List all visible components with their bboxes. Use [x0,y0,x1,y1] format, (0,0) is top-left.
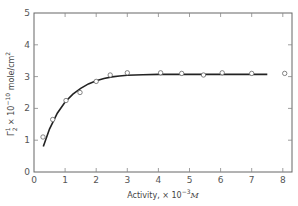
data-point [250,71,254,75]
data-point [108,73,112,77]
y-tick-label: 5 [24,8,30,18]
data-point [201,73,205,77]
y-tick-labels: 012345 [24,8,30,177]
x-tick-labels: 012345678 [31,175,286,185]
fit-curve [43,74,267,146]
axis-ticks [34,13,292,172]
y-tick-label: 3 [24,72,30,82]
data-points [41,71,287,140]
adsorption-chart: 012345678 012345 Activity, × 10−3M Γ21 ×… [0,0,298,206]
data-point [125,71,129,75]
data-point [51,117,55,121]
x-axis-label: Activity, × 10−3M [127,188,199,200]
x-tick-label: 1 [62,175,68,185]
y-tick-label: 2 [24,103,30,113]
data-point [180,71,184,75]
data-point [78,90,82,94]
x-tick-label: 0 [31,175,37,185]
y-axis-label: Γ21 × 10−10 mole/cm2 [4,52,18,137]
data-point [283,71,287,75]
y-tick-label: 4 [24,40,30,50]
data-point [64,98,68,102]
data-point [220,71,224,75]
x-tick-label: 4 [156,175,162,185]
plot-frame [34,13,292,172]
y-tick-label: 0 [24,167,30,177]
data-point [41,135,45,139]
x-tick-label: 3 [124,175,130,185]
x-tick-label: 2 [93,175,99,185]
x-tick-label: 6 [218,175,224,185]
y-tick-label: 1 [24,135,30,145]
data-point [158,71,162,75]
x-tick-label: 8 [280,175,286,185]
x-tick-label: 5 [187,175,193,185]
data-point [94,79,98,83]
x-tick-label: 7 [249,175,255,185]
